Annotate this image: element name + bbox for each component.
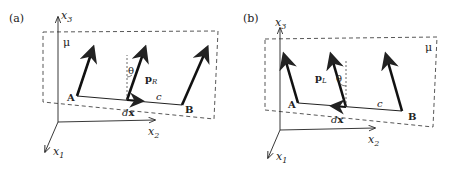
- dx-arrow: [332, 106, 346, 107]
- x3-axis-label: x3: [275, 16, 286, 31]
- curve-c: [298, 103, 402, 111]
- x2-axis: [58, 120, 155, 122]
- x2-axis-label: x2: [368, 133, 379, 148]
- plane-mu-label: μ: [425, 41, 432, 54]
- panel-b: (b) μ x3 x2 x1 A B c dx θ pL: [243, 12, 437, 165]
- curve-c-label: c: [377, 98, 383, 109]
- curve-c-label: c: [156, 91, 162, 102]
- vector-at-a: [284, 55, 298, 103]
- vector-at-b: [386, 55, 402, 111]
- point-a-label: A: [66, 92, 75, 103]
- x2-axis-label: x2: [148, 125, 159, 140]
- dx-label: dx: [122, 107, 135, 118]
- theta-label: θ: [336, 73, 342, 84]
- plane-mu-label: μ: [63, 36, 70, 49]
- panel-a: (a) μ x3 x2 x1 A B c dx θ pR: [9, 9, 218, 160]
- x1-axis-label: x1: [53, 145, 64, 160]
- vector-at-b: [182, 48, 207, 105]
- vector-p-r-label: pR: [145, 73, 158, 86]
- theta-label: θ: [128, 65, 134, 76]
- dx-arrow: [127, 100, 142, 101]
- point-a-label: A: [287, 99, 296, 110]
- dx-label: dx: [331, 114, 344, 125]
- x2-axis: [280, 128, 375, 130]
- vector-at-a: [77, 48, 93, 96]
- panel-a-label: (a): [9, 12, 24, 25]
- x3-axis-label: x3: [61, 9, 72, 24]
- figure-canvas: (a) μ x3 x2 x1 A B c dx θ pR (b) μ: [0, 0, 459, 173]
- vector-p-l-label: pL: [315, 72, 327, 85]
- point-b-label: B: [408, 111, 416, 122]
- point-b-label: B: [185, 104, 193, 115]
- panel-b-label: (b): [243, 12, 259, 25]
- x1-axis-label: x1: [276, 150, 287, 165]
